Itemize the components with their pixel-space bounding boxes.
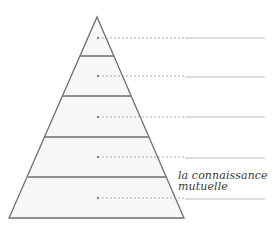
level-1-dot xyxy=(97,37,100,40)
pyramid-shape xyxy=(9,17,184,218)
level-2-dot xyxy=(97,75,100,78)
pyramid-diagram xyxy=(0,0,275,235)
level-5-dot xyxy=(97,197,100,200)
level-5-label-line2: mutuelle xyxy=(178,181,268,192)
level-3-dot xyxy=(97,116,100,119)
level-5-label: la connaissance mutuelle xyxy=(178,170,268,192)
level-4-dot xyxy=(97,156,100,159)
